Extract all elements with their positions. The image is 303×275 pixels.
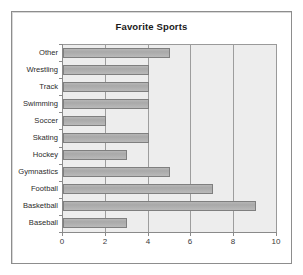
x-tick-mark <box>148 233 149 236</box>
bar-baseball <box>63 218 127 228</box>
y-tick-label-hockey: Hockey <box>0 150 58 159</box>
bar-basketball <box>63 201 256 211</box>
bar-track <box>63 82 149 92</box>
y-tick-mark <box>59 198 62 199</box>
x-axis-line <box>62 232 277 233</box>
x-tick-label: 6 <box>178 237 202 246</box>
x-tick-mark <box>105 233 106 236</box>
x-tick-label: 4 <box>136 237 160 246</box>
x-tick-label: 2 <box>93 237 117 246</box>
bar-other <box>63 48 170 58</box>
y-tick-mark <box>59 61 62 62</box>
y-tick-label-other: Other <box>0 48 58 57</box>
bar-football <box>63 184 213 194</box>
bar-skating <box>63 133 149 143</box>
y-tick-label-soccer: Soccer <box>0 116 58 125</box>
x-tick-mark <box>62 233 63 236</box>
bar-hockey <box>63 150 127 160</box>
chart-title: Favorite Sports <box>0 21 303 32</box>
y-tick-label-skating: Skating <box>0 133 58 142</box>
y-tick-label-swimming: Swimming <box>0 99 58 108</box>
y-tick-mark <box>59 164 62 165</box>
y-tick-mark <box>59 147 62 148</box>
y-tick-mark <box>59 129 62 130</box>
y-tick-mark <box>59 215 62 216</box>
bar-swimming <box>63 99 149 109</box>
y-tick-label-baseball: Baseball <box>0 218 58 227</box>
bar-gymnastics <box>63 167 170 177</box>
x-tick-label: 8 <box>221 237 245 246</box>
y-tick-mark <box>59 78 62 79</box>
y-tick-label-wrestling: Wrestling <box>0 65 58 74</box>
x-tick-mark <box>276 233 277 236</box>
y-tick-mark <box>59 181 62 182</box>
x-tick-mark <box>190 233 191 236</box>
y-tick-label-track: Track <box>0 82 58 91</box>
y-axis-line <box>62 44 63 233</box>
x-tick-label: 10 <box>264 237 288 246</box>
x-tick-mark <box>233 233 234 236</box>
x-tick-label: 0 <box>50 237 74 246</box>
y-tick-label-football: Football <box>0 184 58 193</box>
y-tick-mark <box>59 95 62 96</box>
y-tick-label-basketball: Basketball <box>0 201 58 210</box>
bar-wrestling <box>63 65 149 75</box>
y-tick-label-gymnastics: Gymnastics <box>0 167 58 176</box>
chart-figure: Favorite Sports BaseballBasketballFootba… <box>0 0 303 275</box>
bar-soccer <box>63 116 106 126</box>
y-tick-mark <box>59 44 62 45</box>
y-tick-mark <box>59 112 62 113</box>
